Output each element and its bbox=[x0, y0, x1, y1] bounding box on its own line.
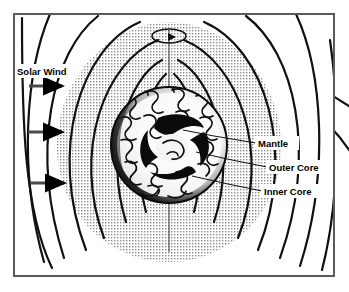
label-mantle: Mantle bbox=[255, 136, 299, 150]
label-inner-core: Inner Core bbox=[261, 184, 323, 198]
diagram-content: Solar Wind Mantle Outer Core Inner Core bbox=[14, 14, 337, 276]
earth-globe bbox=[111, 84, 227, 206]
earth-inner-core bbox=[156, 134, 188, 162]
label-solar-wind: Solar Wind bbox=[15, 64, 79, 78]
solar-wind-label: Solar Wind bbox=[17, 66, 67, 77]
magnetosphere-diagram: Solar Wind Mantle Outer Core Inner Core bbox=[0, 0, 349, 292]
inner-core-label: Inner Core bbox=[264, 186, 312, 197]
label-outer-core: Outer Core bbox=[266, 160, 330, 174]
mantle-label: Mantle bbox=[258, 138, 288, 149]
outer-core-label: Outer Core bbox=[269, 162, 319, 173]
diagram-canvas: Solar Wind Mantle Outer Core Inner Core bbox=[0, 0, 349, 292]
